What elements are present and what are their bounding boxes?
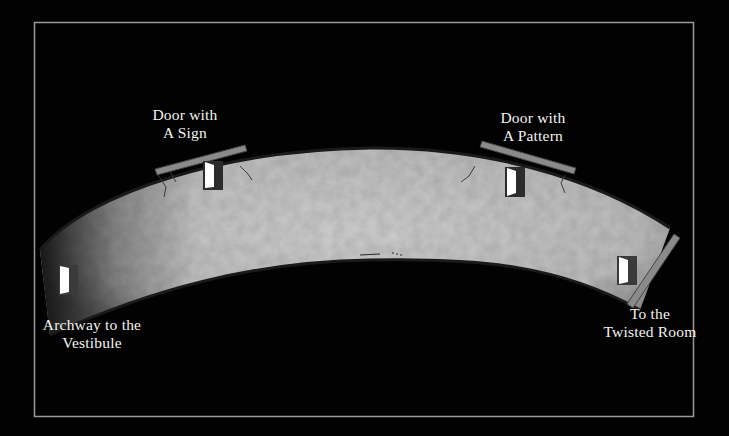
label-door-with-a-pattern: Door with A Pattern [478, 109, 588, 145]
label-line: Door with [478, 109, 588, 127]
corridor-map: Door with A Sign Door with A Pattern Arc… [0, 0, 729, 436]
door-twisted-icon[interactable] [617, 256, 637, 285]
door-pattern-icon[interactable] [505, 167, 525, 197]
label-line: Door with [130, 106, 240, 124]
door-sign-icon[interactable] [203, 161, 223, 190]
label-line: To the [588, 305, 712, 323]
label-line: A Sign [130, 124, 240, 142]
label-archway-to-vestibule: Archway to the Vestibule [18, 316, 166, 352]
label-to-twisted-room: To the Twisted Room [588, 305, 712, 341]
label-door-with-a-sign: Door with A Sign [130, 106, 240, 142]
label-line: Vestibule [18, 334, 166, 352]
archway-vestibule-icon[interactable] [59, 265, 78, 295]
label-line: Twisted Room [588, 323, 712, 341]
label-line: Archway to the [18, 316, 166, 334]
corridor-floor [40, 148, 670, 335]
map-canvas [0, 0, 729, 436]
label-line: A Pattern [478, 127, 588, 145]
